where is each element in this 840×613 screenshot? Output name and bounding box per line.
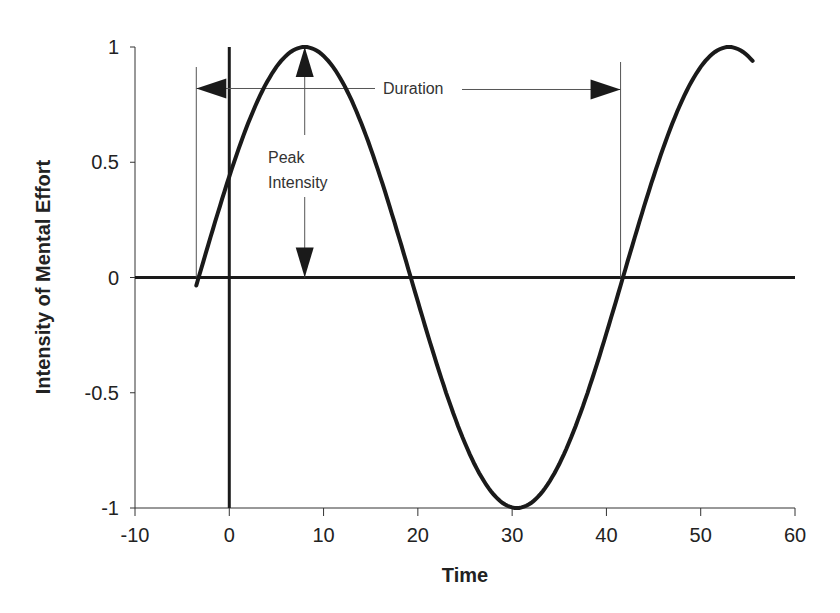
x-tick-label: -10 xyxy=(121,524,150,546)
chart: 10.50-0.5-1-100102030405060 Time Intensi… xyxy=(0,0,840,613)
y-axis-title: Intensity of Mental Effort xyxy=(32,159,54,394)
x-tick-label: 50 xyxy=(690,524,712,546)
x-tick-label: 10 xyxy=(312,524,334,546)
y-tick-label: 0 xyxy=(108,267,119,289)
x-tick-label: 60 xyxy=(784,524,806,546)
peak-label-line2: Intensity xyxy=(268,174,328,191)
x-tick-label: 30 xyxy=(501,524,523,546)
peak-label-line1: Peak xyxy=(268,149,305,166)
duration-label: Duration xyxy=(383,80,443,97)
y-tick-label: 0.5 xyxy=(91,151,119,173)
y-tick-label: -0.5 xyxy=(85,382,119,404)
ticks: 10.50-0.5-1-100102030405060 xyxy=(85,36,807,546)
y-tick-label: -1 xyxy=(101,497,119,519)
x-tick-label: 0 xyxy=(224,524,235,546)
x-tick-label: 40 xyxy=(595,524,617,546)
x-axis-title: Time xyxy=(442,564,488,586)
arrow-up-icon xyxy=(296,47,314,77)
y-tick-label: 1 xyxy=(108,36,119,58)
arrow-down-icon xyxy=(296,248,314,278)
arrow-left-icon xyxy=(196,78,226,98)
x-tick-label: 20 xyxy=(407,524,429,546)
arrow-right-icon xyxy=(591,79,621,99)
